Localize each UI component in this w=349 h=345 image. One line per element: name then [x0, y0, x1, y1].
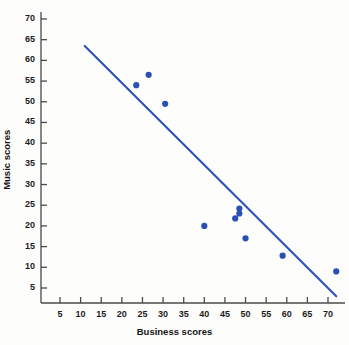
- x-axis-title: Business scores: [0, 327, 349, 337]
- y-tick-label: 15: [15, 242, 35, 251]
- y-tick-label: 50: [15, 97, 35, 106]
- data-point: [333, 268, 339, 274]
- y-axis-title: Music scores: [2, 125, 12, 195]
- x-tick-label: 70: [318, 310, 338, 319]
- y-tick-label: 30: [15, 180, 35, 189]
- data-points: [133, 72, 339, 275]
- y-tick-label: 60: [15, 55, 35, 64]
- data-point: [280, 253, 286, 259]
- trend-line: [85, 46, 337, 296]
- y-tick-label: 55: [15, 76, 35, 85]
- x-tick-label: 40: [194, 310, 214, 319]
- x-tick-label: 30: [153, 310, 173, 319]
- x-tick-label: 65: [297, 310, 317, 319]
- x-tick-label: 35: [174, 310, 194, 319]
- data-point: [133, 82, 139, 88]
- data-point: [242, 235, 248, 241]
- x-tick-label: 25: [132, 310, 152, 319]
- x-tick-label: 15: [91, 310, 111, 319]
- y-tick-label: 20: [15, 221, 35, 230]
- data-point: [162, 101, 168, 107]
- axis-ticks: [41, 19, 328, 303]
- y-tick-label: 45: [15, 117, 35, 126]
- y-tick-label: 5: [15, 283, 35, 292]
- x-tick-label: 20: [112, 310, 132, 319]
- data-point: [146, 72, 152, 78]
- x-tick-label: 45: [215, 310, 235, 319]
- x-tick-label: 10: [71, 310, 91, 319]
- y-tick-label: 25: [15, 200, 35, 209]
- x-tick-label: 55: [256, 310, 276, 319]
- y-tick-label: 10: [15, 262, 35, 271]
- data-point: [236, 205, 242, 211]
- data-point: [201, 223, 207, 229]
- plot-canvas: [0, 0, 349, 345]
- x-tick-label: 50: [236, 310, 256, 319]
- x-tick-label: 60: [277, 310, 297, 319]
- y-tick-label: 40: [15, 138, 35, 147]
- y-tick-label: 65: [15, 35, 35, 44]
- scatter-plot-figure: 510152025303540455055606570 510152025303…: [0, 0, 349, 345]
- x-tick-label: 5: [50, 310, 70, 319]
- data-point: [232, 215, 238, 221]
- y-tick-label: 35: [15, 159, 35, 168]
- y-tick-label: 70: [15, 14, 35, 23]
